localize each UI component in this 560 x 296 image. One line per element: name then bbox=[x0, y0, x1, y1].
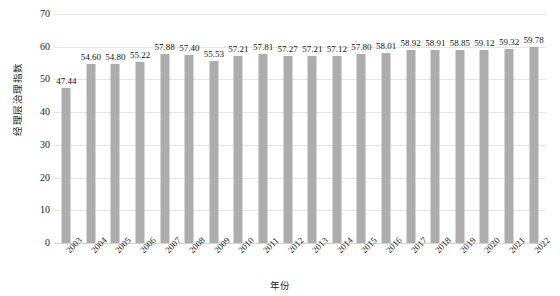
x-tick-slot: 2022 bbox=[521, 246, 546, 280]
bar-value-label: 57.27 bbox=[278, 45, 298, 54]
y-axis-tick-labels: 010203040506070 bbox=[14, 0, 50, 296]
x-tick-slot: 2011 bbox=[251, 246, 276, 280]
y-axis-tick-label: 50 bbox=[14, 74, 50, 84]
bar-slot: 57.21 bbox=[300, 14, 325, 243]
x-axis-tick-labels: 2003200420052006200720082009201020112012… bbox=[54, 246, 546, 280]
x-tick-slot: 2016 bbox=[374, 246, 399, 280]
y-axis-tick-label: 20 bbox=[14, 173, 50, 183]
x-tick-slot: 2006 bbox=[128, 246, 153, 280]
bar[interactable] bbox=[382, 53, 391, 243]
bar-chart: 经理层治理指数 010203040506070 47.4454.6054.805… bbox=[0, 0, 560, 296]
bar[interactable] bbox=[234, 56, 243, 243]
bar-slot: 59.32 bbox=[497, 14, 522, 243]
bar-value-label: 57.40 bbox=[179, 44, 199, 53]
bar-slot: 59.78 bbox=[521, 14, 546, 243]
x-tick-slot: 2018 bbox=[423, 246, 448, 280]
bar-value-label: 57.21 bbox=[228, 45, 248, 54]
bar-value-label: 57.88 bbox=[155, 43, 175, 52]
x-tick-slot: 2012 bbox=[275, 246, 300, 280]
bar-value-label: 59.32 bbox=[499, 38, 519, 47]
bar-slot: 57.88 bbox=[152, 14, 177, 243]
bar-slot: 57.80 bbox=[349, 14, 374, 243]
bar[interactable] bbox=[111, 64, 120, 243]
bar[interactable] bbox=[357, 54, 366, 243]
bar[interactable] bbox=[86, 64, 95, 243]
y-axis-tick-label: 30 bbox=[14, 140, 50, 150]
bar-value-label: 59.78 bbox=[524, 36, 544, 45]
bar-value-label: 54.80 bbox=[105, 53, 125, 62]
y-axis-tick-label: 0 bbox=[14, 238, 50, 248]
x-tick-slot: 2017 bbox=[398, 246, 423, 280]
bar[interactable] bbox=[529, 47, 538, 243]
y-axis-tick-label: 10 bbox=[14, 205, 50, 215]
bar-value-label: 58.91 bbox=[425, 39, 445, 48]
x-tick-slot: 2015 bbox=[349, 246, 374, 280]
bar-slot: 58.92 bbox=[398, 14, 423, 243]
bar[interactable] bbox=[406, 50, 415, 243]
bar[interactable] bbox=[160, 54, 169, 243]
bar-slot: 57.40 bbox=[177, 14, 202, 243]
bar-value-label: 57.81 bbox=[253, 43, 273, 52]
x-tick-slot: 2021 bbox=[497, 246, 522, 280]
x-tick-slot: 2019 bbox=[448, 246, 473, 280]
x-axis-title: 年份 bbox=[0, 278, 560, 292]
bar[interactable] bbox=[259, 54, 268, 243]
x-tick-slot: 2010 bbox=[226, 246, 251, 280]
bar-value-label: 47.44 bbox=[56, 77, 76, 86]
x-tick-slot: 2020 bbox=[472, 246, 497, 280]
bar-value-label: 57.12 bbox=[327, 45, 347, 54]
x-tick-slot: 2009 bbox=[202, 246, 227, 280]
bar[interactable] bbox=[455, 50, 464, 243]
bar-slot: 58.91 bbox=[423, 14, 448, 243]
bar[interactable] bbox=[505, 49, 514, 243]
bar-slot: 57.27 bbox=[275, 14, 300, 243]
x-tick-slot: 2008 bbox=[177, 246, 202, 280]
bar-value-label: 58.92 bbox=[401, 39, 421, 48]
bar-value-label: 57.80 bbox=[351, 43, 371, 52]
bar-slot: 57.12 bbox=[325, 14, 350, 243]
bar-slot: 54.60 bbox=[79, 14, 104, 243]
bar-value-label: 55.22 bbox=[130, 51, 150, 60]
bar[interactable] bbox=[308, 56, 317, 243]
bar[interactable] bbox=[431, 50, 440, 243]
plot-area: 47.4454.6054.8055.2257.8857.4055.5357.21… bbox=[54, 14, 546, 243]
bar-value-label: 55.53 bbox=[204, 50, 224, 59]
bar-slot: 58.85 bbox=[448, 14, 473, 243]
bar-slot: 57.21 bbox=[226, 14, 251, 243]
x-tick-slot: 2003 bbox=[54, 246, 79, 280]
bar-slot: 57.81 bbox=[251, 14, 276, 243]
bar-slot: 55.22 bbox=[128, 14, 153, 243]
bar-value-label: 58.85 bbox=[450, 39, 470, 48]
bar[interactable] bbox=[283, 56, 292, 243]
y-axis-tick-label: 40 bbox=[14, 107, 50, 117]
bar-value-label: 58.01 bbox=[376, 42, 396, 51]
bar-slot: 54.80 bbox=[103, 14, 128, 243]
y-axis-tick-label: 60 bbox=[14, 42, 50, 52]
bar[interactable] bbox=[62, 88, 71, 243]
x-tick-slot: 2013 bbox=[300, 246, 325, 280]
bar-slot: 55.53 bbox=[202, 14, 227, 243]
bar-slot: 47.44 bbox=[54, 14, 79, 243]
bar[interactable] bbox=[209, 61, 218, 243]
bar[interactable] bbox=[185, 55, 194, 243]
bar[interactable] bbox=[480, 50, 489, 243]
bar[interactable] bbox=[332, 56, 341, 243]
x-tick-slot: 2005 bbox=[103, 246, 128, 280]
bar-value-label: 57.21 bbox=[302, 45, 322, 54]
bar-value-label: 59.12 bbox=[474, 39, 494, 48]
x-tick-slot: 2004 bbox=[79, 246, 104, 280]
bar-slot: 59.12 bbox=[472, 14, 497, 243]
bar-slot: 58.01 bbox=[374, 14, 399, 243]
x-tick-slot: 2014 bbox=[325, 246, 350, 280]
bar[interactable] bbox=[136, 62, 145, 243]
x-tick-slot: 2007 bbox=[152, 246, 177, 280]
y-axis-tick-label: 70 bbox=[14, 9, 50, 19]
bar-value-label: 54.60 bbox=[81, 53, 101, 62]
